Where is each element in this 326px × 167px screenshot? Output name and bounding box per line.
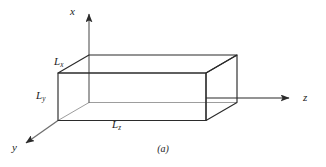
box-front-face [58, 73, 206, 121]
hidden-edge-bottom-left-depth [58, 103, 89, 121]
dimension-label-lx: Lx [54, 56, 63, 69]
box-diagram-svg [0, 0, 326, 167]
box-edges-group [58, 55, 237, 121]
dimension-label-ly: Ly [36, 90, 45, 103]
dimension-lz-subscript: z [118, 124, 121, 132]
box-right-face [206, 55, 237, 121]
axes-group [26, 14, 289, 143]
figure-caption: (a) [0, 143, 326, 154]
figure-container: x y z Lx Ly Lz (a) [0, 0, 326, 167]
y-axis-line [26, 121, 58, 144]
dimension-ly-subscript: y [42, 95, 45, 103]
dimension-lx-subscript: x [60, 61, 63, 69]
z-axis-label: z [303, 92, 307, 103]
x-axis-label: x [70, 6, 75, 17]
dimension-label-lz: Lz [112, 119, 121, 132]
